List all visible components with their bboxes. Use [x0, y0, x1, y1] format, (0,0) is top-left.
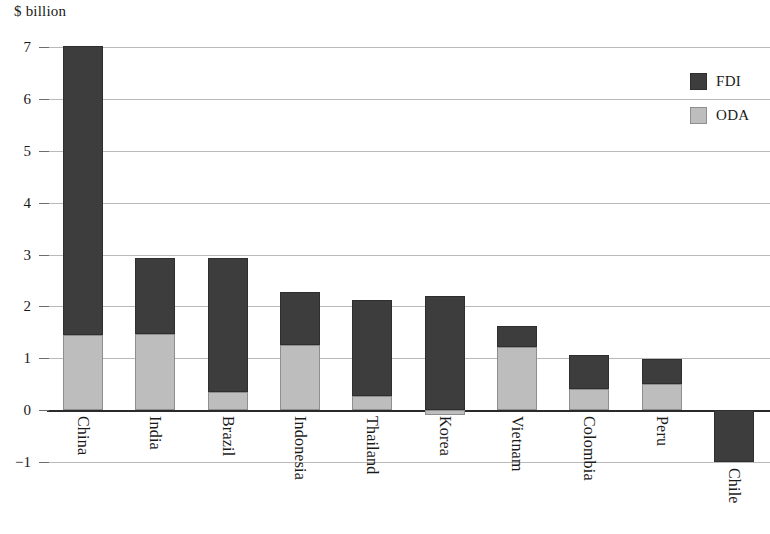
y-axis-tick-label: 7 — [24, 39, 32, 56]
bar-segment-oda[interactable] — [642, 384, 682, 410]
bar-segment-fdi[interactable] — [63, 46, 103, 335]
x-axis-label-peru: Peru — [653, 416, 671, 446]
bar-segment-fdi[interactable] — [425, 296, 465, 410]
x-axis-label-korea: Korea — [436, 416, 454, 456]
y-axis-tick-label: 5 — [24, 142, 32, 159]
bar-segment-fdi[interactable] — [714, 410, 754, 462]
stacked-bar-chart: $ billion 76543210−1 ChinaIndiaBrazilInd… — [0, 0, 770, 534]
y-axis-tick-label: 4 — [24, 194, 32, 211]
chart-legend: FDIODA — [690, 64, 770, 132]
bar-segment-oda[interactable] — [208, 392, 248, 410]
x-axis-label-china: China — [74, 416, 92, 455]
bar-segment-fdi[interactable] — [135, 258, 175, 334]
y-axis-tick-label: 0 — [24, 402, 32, 419]
legend-label: ODA — [716, 107, 749, 124]
y-axis-tick-label: 3 — [24, 246, 32, 263]
x-axis-label-vietnam: Vietnam — [508, 416, 526, 472]
bar-segment-oda[interactable] — [497, 347, 537, 410]
bar-segment-fdi[interactable] — [497, 326, 537, 347]
y-axis-title: $ billion — [14, 3, 66, 20]
legend-label: FDI — [716, 73, 741, 90]
bar-segment-oda[interactable] — [135, 334, 175, 410]
bar-segment-fdi[interactable] — [280, 292, 320, 345]
y-axis-tick-label: 6 — [24, 90, 32, 107]
y-axis-tick-label: 1 — [24, 350, 32, 367]
bar-segment-fdi[interactable] — [208, 258, 248, 392]
bar-segment-oda[interactable] — [280, 345, 320, 410]
x-axis-label-chile: Chile — [725, 468, 743, 504]
legend-item-fdi[interactable]: FDI — [690, 64, 770, 98]
bar-segment-oda[interactable] — [569, 389, 609, 410]
bar-segment-fdi[interactable] — [642, 359, 682, 384]
bar-segment-fdi[interactable] — [352, 300, 392, 396]
legend-swatch-oda-icon — [690, 107, 707, 124]
x-axis-label-indonesia: Indonesia — [291, 416, 309, 480]
x-axis-label-india: India — [146, 416, 164, 450]
bar-segment-fdi[interactable] — [569, 355, 609, 389]
bar-segment-oda[interactable] — [352, 396, 392, 410]
x-axis-label-colombia: Colombia — [580, 416, 598, 481]
bar-segment-oda[interactable] — [425, 410, 465, 415]
legend-swatch-fdi-icon — [690, 73, 707, 90]
x-axis-label-brazil: Brazil — [219, 416, 237, 456]
y-axis-tick-label: 2 — [24, 298, 32, 315]
bar-segment-oda[interactable] — [63, 335, 103, 410]
x-axis-label-thailand: Thailand — [363, 416, 381, 474]
legend-item-oda[interactable]: ODA — [690, 98, 770, 132]
y-axis-tick-label: −1 — [15, 454, 31, 471]
